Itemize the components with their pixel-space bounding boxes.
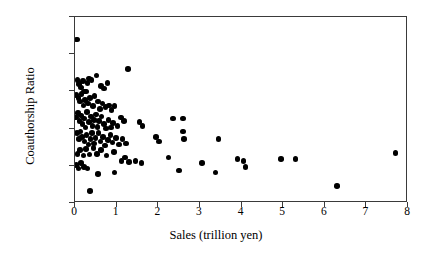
data-point: [166, 155, 172, 161]
data-point: [139, 160, 145, 166]
x-tick-mark: [282, 202, 283, 207]
data-point: [176, 168, 182, 174]
data-point: [101, 86, 107, 92]
data-point: [95, 171, 101, 177]
data-point: [133, 158, 139, 164]
x-tick-mark: [324, 202, 325, 207]
data-point: [216, 136, 222, 142]
data-point: [97, 106, 103, 112]
data-point: [111, 149, 117, 155]
data-point: [94, 73, 100, 79]
data-point: [105, 80, 111, 86]
data-point: [112, 103, 118, 109]
x-tick-mark: [116, 202, 117, 207]
data-point: [125, 66, 131, 72]
data-point: [170, 116, 176, 122]
data-point: [213, 170, 219, 176]
data-point: [77, 147, 83, 153]
data-point: [140, 123, 146, 129]
data-point: [85, 166, 91, 172]
x-tick-mark: [199, 202, 200, 207]
data-point: [95, 124, 101, 130]
data-point: [76, 166, 82, 172]
x-tick-label: 7: [345, 206, 385, 218]
data-point: [99, 114, 105, 120]
x-tick-label: 5: [262, 206, 302, 218]
data-point: [98, 147, 104, 153]
x-tick-label: 0: [54, 206, 94, 218]
data-point: [89, 77, 95, 83]
data-point: [334, 183, 340, 189]
data-point: [113, 135, 119, 141]
data-points-layer: [75, 17, 406, 201]
data-point: [87, 188, 93, 194]
data-point: [112, 170, 118, 176]
data-point: [123, 141, 129, 147]
data-point: [243, 164, 249, 170]
x-tick-mark: [407, 202, 408, 207]
data-point: [81, 153, 87, 159]
data-point: [199, 160, 205, 166]
data-point: [115, 123, 121, 129]
data-point: [156, 139, 162, 145]
data-point: [278, 156, 284, 162]
data-point: [90, 103, 96, 109]
data-point: [83, 125, 89, 131]
data-point: [83, 89, 89, 95]
x-tick-mark: [241, 202, 242, 207]
data-point: [116, 142, 122, 148]
x-axis-title: Sales (trillion yen): [0, 228, 432, 242]
x-tick-mark: [157, 202, 158, 207]
data-point: [235, 156, 241, 162]
data-point: [393, 150, 399, 156]
y-axis-title: Coauthorship Ratio: [23, 23, 37, 209]
x-tick-label: 6: [304, 206, 344, 218]
data-point: [180, 129, 186, 135]
data-point: [180, 116, 186, 122]
scatter-chart-figure: 0%20%40%60%80%100% 012345678 Sales (tril…: [0, 0, 432, 254]
x-tick-label: 8: [387, 206, 427, 218]
data-point: [83, 146, 89, 152]
x-tick-label: 2: [137, 206, 177, 218]
plot-area: [74, 16, 407, 202]
data-point: [121, 118, 127, 124]
data-point: [75, 37, 80, 43]
data-point: [293, 156, 299, 162]
x-tick-mark: [365, 202, 366, 207]
x-tick-label: 3: [179, 206, 219, 218]
data-point: [126, 159, 132, 165]
x-tick-label: 1: [96, 206, 136, 218]
data-point: [181, 136, 187, 142]
x-tick-label: 4: [221, 206, 261, 218]
data-point: [104, 153, 110, 159]
data-point: [87, 152, 93, 158]
x-tick-mark: [74, 202, 75, 207]
data-point: [93, 112, 99, 118]
